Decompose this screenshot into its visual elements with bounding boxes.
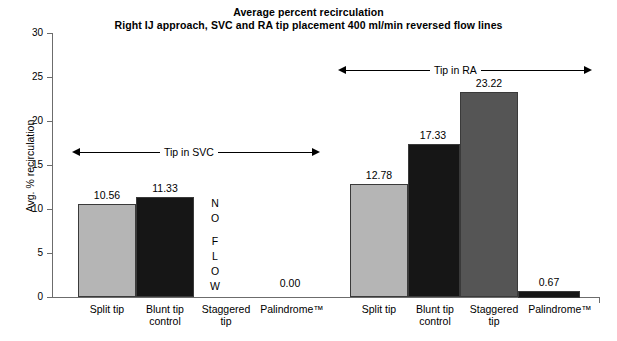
bar-value-svc-palindrome: 0.00 — [259, 278, 321, 289]
y-tick-5 — [47, 253, 52, 254]
x-label-svc-blunt-tip-control-line1: Blunt tip — [146, 303, 184, 315]
group-label-ra: Tip in RA — [430, 63, 481, 77]
bar-value-ra-staggered-tip: 23.22 — [460, 78, 518, 89]
x-label-svc-palindrome: Palindrome™ — [256, 303, 328, 315]
x-label-svc-split-tip-line1: Split tip — [90, 303, 124, 315]
x-label-svc-blunt-tip-control-line2: control — [136, 315, 194, 327]
chart-subtitle: Right IJ approach, SVC and RA tip placem… — [0, 19, 617, 32]
y-tick-30 — [47, 33, 52, 34]
group-annotation-svc: Tip in SVC — [72, 145, 320, 159]
x-label-svc-palindrome-line1: Palindrome™ — [260, 303, 324, 315]
y-axis-title: Avg. % recirculation — [24, 86, 36, 246]
x-axis-end-tick — [599, 297, 600, 303]
chart-page: Average percent recirculation Right IJ a… — [0, 0, 617, 341]
bar-ra-blunt-tip-control[interactable] — [408, 144, 460, 297]
x-label-svc-staggered-tip-line2: tip — [194, 315, 258, 327]
bar-value-ra-split-tip: 12.78 — [350, 170, 408, 181]
no-flow-letter-w: W — [210, 280, 220, 292]
chart-title-block: Average percent recirculation Right IJ a… — [0, 6, 617, 32]
y-tick-label-25: 25 — [19, 72, 43, 82]
bar-svc-split-tip[interactable] — [78, 204, 136, 297]
x-label-ra-blunt-tip-control: Blunt tip control — [406, 303, 464, 327]
y-axis-line — [52, 33, 53, 298]
x-label-ra-palindrome: Palindrome™ — [524, 303, 596, 315]
bar-ra-staggered-tip[interactable] — [460, 92, 518, 297]
x-label-ra-blunt-tip-control-line2: control — [406, 315, 464, 327]
x-label-ra-palindrome-line1: Palindrome™ — [528, 303, 592, 315]
no-flow-letter-o: O — [211, 212, 219, 224]
x-label-ra-split-tip-line1: Split tip — [362, 303, 396, 315]
no-flow-letter-l: L — [212, 250, 218, 262]
bar-value-ra-blunt-tip-control: 17.33 — [404, 130, 462, 141]
x-label-svc-staggered-tip-line1: Staggered — [202, 303, 250, 315]
bar-ra-split-tip[interactable] — [350, 184, 408, 297]
x-label-ra-staggered-tip-line2: tip — [462, 315, 526, 327]
arrow-left-icon — [72, 148, 80, 156]
y-tick-label-5: 5 — [19, 248, 43, 258]
no-flow-gap — [205, 226, 225, 234]
y-tick-20 — [47, 121, 52, 122]
bar-value-svc-blunt-tip-control: 11.33 — [136, 183, 194, 194]
x-label-svc-blunt-tip-control: Blunt tip control — [136, 303, 194, 327]
arrow-right-icon — [584, 66, 592, 74]
y-tick-label-0: 0 — [19, 292, 43, 302]
bar-value-svc-split-tip: 10.56 — [78, 190, 136, 201]
x-label-ra-staggered-tip-line1: Staggered — [470, 303, 518, 315]
page-title: Average percent recirculation — [0, 6, 617, 19]
y-tick-25 — [47, 77, 52, 78]
x-label-ra-staggered-tip: Staggered tip — [462, 303, 526, 327]
x-label-svc-split-tip: Split tip — [78, 303, 136, 315]
x-label-ra-blunt-tip-control-line1: Blunt tip — [416, 303, 454, 315]
x-label-ra-split-tip: Split tip — [350, 303, 408, 315]
y-tick-0 — [47, 297, 52, 298]
no-flow-letter-f: F — [212, 235, 218, 247]
arrow-left-icon — [338, 66, 346, 74]
no-flow-letter-n: N — [211, 197, 219, 209]
bar-svc-blunt-tip-control[interactable] — [136, 197, 194, 297]
group-annotation-ra: Tip in RA — [338, 63, 592, 77]
y-tick-15 — [47, 165, 52, 166]
bar-value-ra-palindrome: 0.67 — [518, 277, 580, 288]
bar-ra-palindrome[interactable] — [518, 291, 580, 298]
arrow-right-icon — [312, 148, 320, 156]
y-tick-label-30: 30 — [19, 28, 43, 38]
no-flow-letter-o2: O — [211, 265, 219, 277]
no-flow-annotation: N O F L O W — [205, 196, 225, 294]
y-tick-10 — [47, 209, 52, 210]
x-label-svc-staggered-tip: Staggered tip — [194, 303, 258, 327]
group-label-svc: Tip in SVC — [160, 145, 218, 159]
